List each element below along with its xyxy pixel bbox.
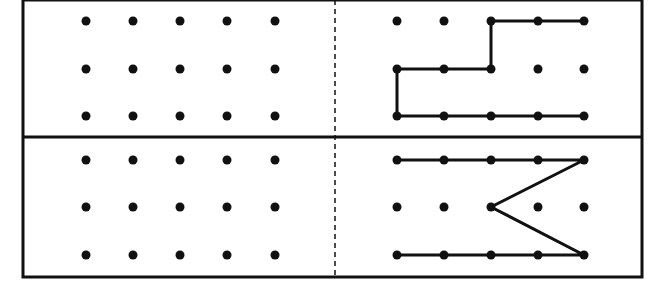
grid-dot	[129, 17, 138, 26]
grid-dot	[271, 251, 280, 260]
grid-dot	[176, 17, 185, 26]
grid-dot	[580, 251, 589, 260]
grid-dot	[440, 251, 449, 260]
grid-dot	[271, 112, 280, 121]
panel-top-right	[393, 17, 589, 121]
grid-dot	[129, 156, 138, 165]
grid-dot	[223, 17, 232, 26]
grid-dot	[393, 156, 402, 165]
grid-dot	[82, 203, 91, 212]
grid-dot	[271, 156, 280, 165]
grid-dot	[487, 112, 496, 121]
grid-dot	[580, 156, 589, 165]
grid-dot	[393, 112, 402, 121]
grid-dot	[580, 203, 589, 212]
grid-dot	[534, 17, 543, 26]
grid-dot	[82, 65, 91, 74]
grid-dot	[176, 65, 185, 74]
grid-dot	[271, 65, 280, 74]
grid-dot	[176, 251, 185, 260]
grid-dot	[223, 65, 232, 74]
grid-dot	[580, 65, 589, 74]
grid-dot	[393, 65, 402, 74]
grid-dot	[580, 17, 589, 26]
grid-dot	[487, 17, 496, 26]
grid-dot	[82, 17, 91, 26]
grid-dot	[534, 65, 543, 74]
grid-dot	[82, 156, 91, 165]
panel-top-left	[82, 17, 280, 121]
grid-dot	[534, 251, 543, 260]
grid-dot	[223, 112, 232, 121]
grid-dot	[440, 203, 449, 212]
grid-dot	[440, 65, 449, 74]
grid-dot	[487, 65, 496, 74]
grid-dot	[440, 112, 449, 121]
grid-dot	[129, 112, 138, 121]
grid-dot	[223, 203, 232, 212]
grid-dot	[393, 203, 402, 212]
grid-dot	[534, 156, 543, 165]
dot-grid-diagram	[0, 0, 654, 297]
grid-dot	[393, 17, 402, 26]
grid-dot	[580, 112, 589, 121]
grid-dot	[440, 17, 449, 26]
grid-dot	[487, 156, 496, 165]
grid-dot	[223, 251, 232, 260]
grid-dot	[440, 156, 449, 165]
grid-dot	[176, 203, 185, 212]
grid-dot	[223, 156, 232, 165]
grid-dot	[487, 203, 496, 212]
grid-dot	[129, 251, 138, 260]
grid-dot	[393, 251, 402, 260]
grid-dot	[129, 203, 138, 212]
grid-dot	[534, 203, 543, 212]
grid-dot	[176, 112, 185, 121]
grid-dot	[534, 112, 543, 121]
grid-dot	[82, 251, 91, 260]
grid-dot	[271, 17, 280, 26]
grid-dot	[129, 65, 138, 74]
panel-bottom-left	[82, 156, 280, 260]
grid-dot	[176, 156, 185, 165]
grid-dot	[82, 112, 91, 121]
grid-dot	[271, 203, 280, 212]
grid-dot	[487, 251, 496, 260]
panel-bottom-right	[393, 156, 589, 260]
